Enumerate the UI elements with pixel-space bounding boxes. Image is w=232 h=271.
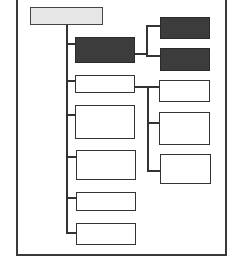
- branch-l1-2-vertical: [147, 86, 149, 172]
- connector-l2-2: [146, 55, 160, 57]
- connector-l1-5: [66, 197, 76, 199]
- connector-l2-3: [147, 86, 159, 88]
- root-trunk-line: [66, 25, 68, 234]
- node-l1-3: [75, 105, 135, 139]
- node-l2-5: [160, 154, 211, 184]
- node-l2-3: [159, 80, 210, 102]
- connector-l1-4: [66, 156, 76, 158]
- node-l2-4: [159, 112, 210, 145]
- node-l1-2: [75, 75, 135, 93]
- node-l2-2: [160, 48, 210, 71]
- node-l1-4: [76, 150, 136, 180]
- connector-l2-5: [147, 170, 160, 172]
- connector-l2-4: [147, 122, 159, 124]
- bracket-l1-1-vertical: [146, 25, 148, 56]
- connector-l2-1: [146, 25, 160, 27]
- connector-l1-6: [66, 232, 76, 234]
- node-l1-5: [76, 192, 136, 211]
- node-l2-1: [160, 17, 210, 39]
- node-l1-1: [75, 37, 135, 63]
- connector-l1-3: [66, 114, 75, 116]
- connector-l1-1: [66, 43, 75, 45]
- node-l1-6: [76, 223, 136, 245]
- root-node: [30, 7, 103, 25]
- connector-l1-2: [66, 80, 75, 82]
